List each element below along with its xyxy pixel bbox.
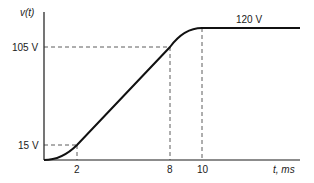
voltage-curve	[44, 28, 300, 160]
x-tick-8: 8	[167, 164, 173, 175]
y-tick-105v: 105 V	[12, 42, 38, 53]
voltage-waveform-plot	[0, 0, 314, 183]
x-tick-2: 2	[74, 164, 80, 175]
y-axis-label: v(t)	[20, 7, 34, 18]
y-tick-15v: 15 V	[18, 140, 39, 151]
x-tick-10: 10	[197, 164, 208, 175]
x-axis-label: t, ms	[273, 164, 295, 175]
plateau-label: 120 V	[236, 14, 262, 25]
